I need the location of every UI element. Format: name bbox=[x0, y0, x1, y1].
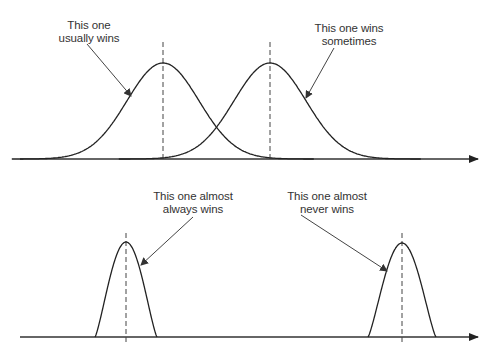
annotation-almost-never-wins: This one almost never wins bbox=[287, 190, 367, 216]
annotation-arrow bbox=[141, 217, 193, 265]
annotation-line: always wins bbox=[153, 203, 233, 216]
axes-layer bbox=[20, 159, 478, 337]
annotation-line: sometimes bbox=[314, 35, 383, 48]
annotation-line: This one bbox=[59, 19, 120, 32]
annotation-line: This one wins bbox=[314, 22, 383, 35]
annotation-arrow bbox=[87, 44, 131, 96]
annotation-arrow bbox=[301, 215, 387, 271]
annotation-wins-sometimes: This one wins sometimes bbox=[314, 22, 383, 48]
annotation-line: usually wins bbox=[59, 32, 120, 45]
diagram-canvas bbox=[0, 0, 499, 358]
annotation-arrows-layer bbox=[87, 44, 387, 271]
annotation-line: never wins bbox=[287, 203, 367, 216]
annotation-line: This one almost bbox=[153, 190, 233, 203]
annotation-line: This one almost bbox=[287, 190, 367, 203]
distribution-comparison-diagram: This one usually wins This one wins some… bbox=[0, 0, 499, 358]
annotation-usually-wins: This one usually wins bbox=[59, 19, 120, 45]
annotation-arrow bbox=[306, 48, 334, 98]
annotation-almost-always-wins: This one almost always wins bbox=[153, 190, 233, 216]
